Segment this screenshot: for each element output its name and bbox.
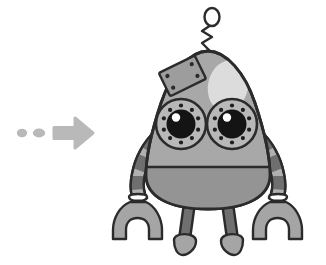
right-foot xyxy=(221,234,243,255)
left-claw-pincer-icon xyxy=(113,202,162,239)
right-eye-glint-icon xyxy=(223,113,231,121)
trail-dot-1-icon xyxy=(17,129,27,137)
pointer-arrow-group[interactable] xyxy=(17,118,93,148)
right-eye-group[interactable] xyxy=(207,99,257,149)
antenna-bulb-icon xyxy=(205,8,220,26)
antenna-stem-icon xyxy=(202,25,212,50)
left-claw xyxy=(113,194,162,239)
right-claw-cuff-icon xyxy=(269,194,287,201)
robot-scene xyxy=(0,0,326,265)
arrow-right-icon xyxy=(54,118,93,148)
left-claw-cuff-icon xyxy=(129,194,147,201)
left-foot xyxy=(174,234,196,255)
antenna-group xyxy=(202,8,220,50)
left-eye-group[interactable] xyxy=(156,99,206,149)
right-eye-pupil xyxy=(218,110,247,139)
right-claw xyxy=(253,194,302,239)
illustration-canvas: Robot mascot illustration with pointer a… xyxy=(0,0,326,265)
robot-figure[interactable] xyxy=(113,8,302,255)
left-eye-pupil xyxy=(167,110,196,139)
right-claw-pincer-icon xyxy=(253,202,302,239)
left-eye-glint-icon xyxy=(172,113,180,121)
trail-dot-2-icon xyxy=(33,129,45,138)
legs-group xyxy=(174,203,243,255)
